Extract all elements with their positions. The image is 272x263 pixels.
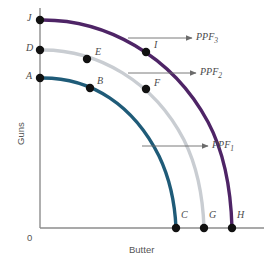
ppf1-label: PPF1 — [212, 140, 234, 153]
ppf2-label-sub: 2 — [218, 71, 222, 80]
x-axis-title: Butter — [129, 245, 154, 255]
ppf-chart-figure: J D A E B I F C G H PPF3 PPF2 PPF1 Guns … — [0, 0, 272, 263]
point-A — [36, 74, 44, 82]
point-D — [36, 46, 44, 54]
point-F — [142, 85, 150, 93]
ppf-plot-svg — [0, 0, 272, 263]
ppf1-label-sub: 1 — [230, 144, 234, 153]
point-H — [228, 224, 236, 232]
point-label-E: E — [95, 47, 101, 57]
point-label-H: H — [237, 210, 244, 220]
point-J — [36, 16, 44, 24]
ppf3-label-sub: 3 — [214, 36, 218, 45]
point-label-G: G — [209, 210, 216, 220]
origin-label: 0 — [27, 233, 32, 243]
point-label-D: D — [26, 43, 33, 53]
point-E — [83, 55, 91, 63]
ppf2-label-text: PPF — [200, 66, 218, 77]
point-B — [86, 84, 94, 92]
data-points-group — [36, 16, 236, 232]
annotation-arrows-group — [128, 38, 208, 146]
point-label-C: C — [181, 210, 188, 220]
y-axis-title: Guns — [16, 122, 26, 145]
ppf1-label-text: PPF — [212, 139, 230, 150]
point-label-I: I — [154, 40, 157, 50]
point-label-F: F — [154, 78, 160, 88]
point-C — [172, 224, 180, 232]
point-label-A: A — [26, 71, 32, 81]
point-G — [200, 224, 208, 232]
point-label-B: B — [97, 76, 103, 86]
ppf3-label-text: PPF — [196, 31, 214, 42]
point-label-J: J — [27, 13, 31, 23]
point-I — [142, 48, 150, 56]
ppf2-curve — [40, 50, 204, 228]
ppf3-label: PPF3 — [196, 32, 218, 45]
ppf2-label: PPF2 — [200, 67, 222, 80]
ppf-curves-group — [40, 20, 232, 228]
